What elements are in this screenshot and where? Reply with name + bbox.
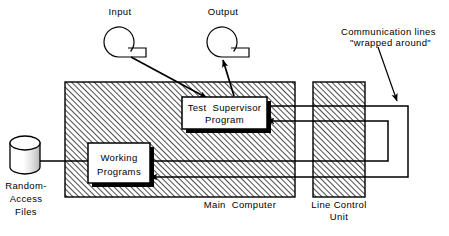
label-random-access-files-line3: Files <box>0 206 52 218</box>
block-diagram-figure: Input Output Communication lines "wrappe… <box>0 0 449 236</box>
output-terminal-symbol <box>207 27 249 57</box>
label-output: Output <box>200 6 246 18</box>
input-terminal-symbol <box>104 27 146 57</box>
label-main-computer: Main Computer <box>185 199 295 211</box>
node-label-test-supervisor-line1: Test Supervisor <box>182 102 267 114</box>
label-communication-lines-line1: Communication lines <box>341 26 436 38</box>
node-label-working-programs-line1: Working <box>88 152 150 164</box>
node-working-programs <box>88 143 154 187</box>
label-input: Input <box>99 6 141 18</box>
node-label-test-supervisor-line2: Program <box>182 114 267 126</box>
region-line-control-unit <box>313 82 365 197</box>
node-label-working-programs-line2: Programs <box>88 166 150 178</box>
label-line-control-unit-line1: Line Control <box>304 199 374 211</box>
callout-leader-communication-lines <box>378 47 397 101</box>
random-access-files-cylinder <box>10 136 40 174</box>
label-communication-lines-line2: "wrapped around" <box>350 37 431 49</box>
label-random-access-files-line1: Random- <box>0 180 52 192</box>
label-random-access-files-line2: Access <box>0 193 52 205</box>
label-line-control-unit-line2: Unit <box>304 211 374 223</box>
